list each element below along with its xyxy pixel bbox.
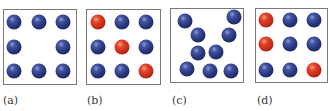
blue-atom-icon bbox=[209, 45, 224, 60]
blue-atom-icon bbox=[283, 63, 298, 78]
blue-atom-icon bbox=[203, 64, 218, 79]
blue-atom-icon bbox=[259, 63, 274, 78]
blue-atom-icon bbox=[222, 28, 237, 43]
blue-atom-icon bbox=[227, 10, 242, 25]
blue-atom-icon bbox=[115, 15, 130, 30]
blue-atom-icon bbox=[180, 62, 195, 77]
blue-atom-icon bbox=[139, 15, 154, 30]
blue-atom-icon bbox=[224, 64, 239, 79]
blue-atom-icon bbox=[7, 40, 22, 55]
red-atom-icon bbox=[259, 37, 274, 52]
blue-atom-icon bbox=[191, 28, 206, 43]
red-atom-icon bbox=[139, 64, 154, 79]
blue-atom-icon bbox=[139, 40, 154, 55]
panel-b-label: (b) bbox=[87, 94, 103, 108]
blue-atom-icon bbox=[56, 15, 71, 30]
blue-atom-icon bbox=[307, 37, 322, 52]
blue-atom-icon bbox=[7, 64, 22, 79]
blue-atom-icon bbox=[191, 46, 206, 61]
red-atom-icon bbox=[91, 15, 106, 30]
blue-atom-icon bbox=[32, 15, 47, 30]
blue-atom-icon bbox=[283, 13, 298, 28]
panel-a-label: (a) bbox=[3, 94, 18, 108]
blue-atom-icon bbox=[91, 64, 106, 79]
blue-atom-icon bbox=[91, 40, 106, 55]
red-atom-icon bbox=[259, 13, 274, 28]
red-atom-icon bbox=[307, 63, 322, 78]
blue-atom-icon bbox=[7, 15, 22, 30]
blue-atom-icon bbox=[307, 13, 322, 28]
blue-atom-icon bbox=[178, 14, 193, 29]
red-atom-icon bbox=[115, 40, 130, 55]
blue-atom-icon bbox=[56, 64, 71, 79]
blue-atom-icon bbox=[115, 64, 130, 79]
panel-c-label: (c) bbox=[172, 94, 187, 108]
blue-atom-icon bbox=[283, 37, 298, 52]
blue-atom-icon bbox=[56, 40, 71, 55]
panel-d-label: (d) bbox=[257, 94, 273, 108]
blue-atom-icon bbox=[32, 64, 47, 79]
